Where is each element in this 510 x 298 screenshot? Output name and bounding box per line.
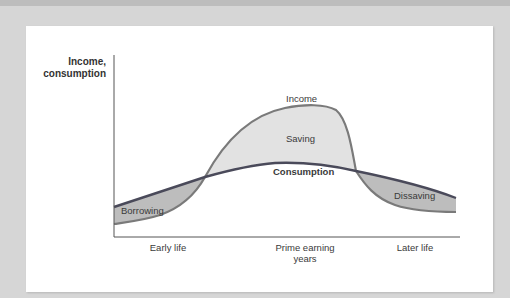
y-axis-label: Income, consumption bbox=[43, 56, 106, 80]
y-axis-label-line1: Income, bbox=[43, 56, 106, 68]
borrowing-region bbox=[114, 177, 205, 224]
y-axis-label-line2: consumption bbox=[43, 68, 106, 80]
consumption-label: Consumption bbox=[273, 166, 334, 177]
x-tick-prime-line1: Prime earning bbox=[260, 242, 350, 253]
x-tick-later-life: Later life bbox=[385, 242, 445, 253]
borrowing-label: Borrowing bbox=[121, 205, 164, 216]
saving-label: Saving bbox=[286, 133, 315, 144]
income-label: Income bbox=[286, 93, 317, 104]
life-cycle-chart bbox=[0, 0, 510, 298]
x-tick-early-life-text: Early life bbox=[128, 242, 208, 253]
x-tick-early-life: Early life bbox=[128, 242, 208, 253]
x-tick-prime-line2: years bbox=[260, 253, 350, 264]
x-tick-later-life-text: Later life bbox=[385, 242, 445, 253]
dissaving-label: Dissaving bbox=[394, 190, 435, 201]
x-tick-prime-earning-years: Prime earning years bbox=[260, 242, 350, 264]
